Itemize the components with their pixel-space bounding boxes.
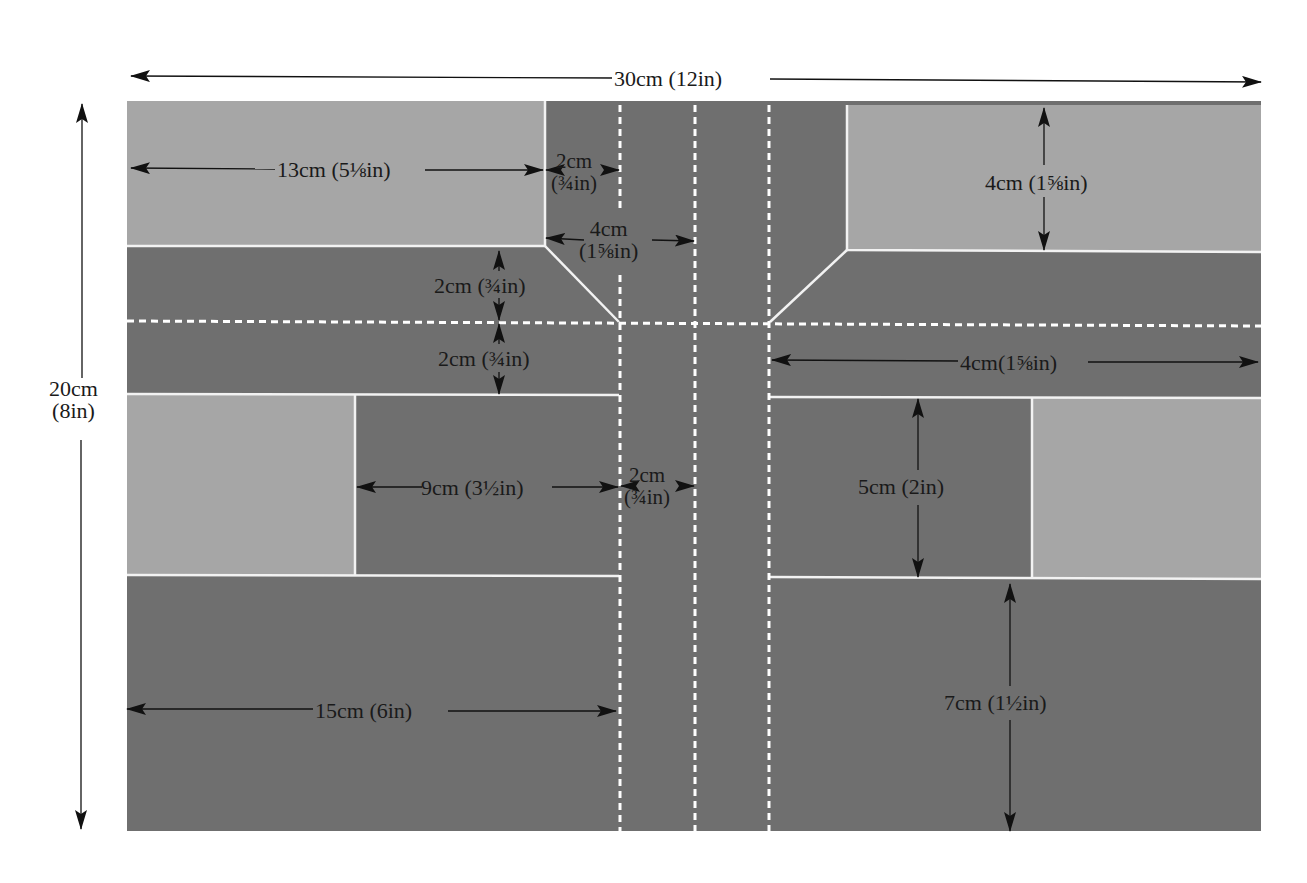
road-layout-diagram	[0, 0, 1307, 883]
dim-top-road-width-line2: (1⅝in)	[579, 240, 638, 262]
dim-middle-center-lane-line2: (¾in)	[624, 486, 670, 508]
dim-left-upper-lane: 2cm (¾in)	[432, 275, 528, 297]
dim-top-road-width-line1: 4cm	[579, 218, 638, 240]
middle-left-pavement	[127, 395, 355, 575]
dim-top-inner-lane: 2cm (¾in)	[551, 150, 597, 194]
dim-middle-center-lane: 2cm (¾in)	[624, 464, 670, 508]
middle-right-pavement	[1032, 398, 1261, 578]
overall-width-label: 30cm (12in)	[612, 68, 724, 90]
dim-middle-left-width: 9cm (3½in)	[421, 477, 524, 499]
overall-height-line2: (8in)	[49, 400, 98, 422]
dim-top-road-width: 4cm (1⅝in)	[579, 218, 638, 262]
dim-right-road-width: 4cm(1⅝in)	[960, 352, 1057, 374]
dim-top-right-height: 4cm (1⅝in)	[983, 172, 1090, 194]
dim-left-lower-lane: 2cm (¾in)	[436, 348, 532, 370]
dim-middle-center-lane-line1: 2cm	[624, 464, 670, 486]
dim-middle-right-height: 5cm (2in)	[856, 476, 946, 498]
overall-height-label: 20cm (8in)	[47, 378, 100, 422]
dim-top-inner-lane-line2: (¾in)	[551, 172, 597, 194]
dim-bottom-left-width: 15cm (6in)	[315, 700, 412, 722]
dim-top-left-width: 13cm (5⅛in)	[277, 159, 391, 181]
overall-height-line1: 20cm	[49, 378, 98, 400]
dim-top-inner-lane-line1: 2cm	[551, 150, 597, 172]
dim-bottom-right-height: 7cm (1½in)	[942, 692, 1049, 714]
